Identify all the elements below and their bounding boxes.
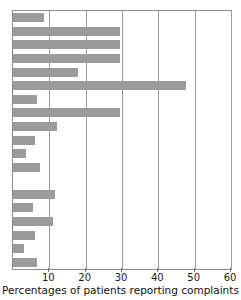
- bar: [13, 203, 33, 212]
- bar-row: [13, 190, 231, 199]
- bar-row: [13, 258, 231, 267]
- bar: [13, 13, 44, 22]
- bar-row: [13, 54, 231, 63]
- bar: [13, 217, 53, 226]
- bar: [13, 81, 186, 90]
- bar: [13, 136, 35, 145]
- bar-row: [13, 217, 231, 226]
- x-tick-label-60: 60: [224, 272, 237, 284]
- plot-area: [12, 10, 232, 270]
- x-axis-title: Percentages of patients reporting compla…: [0, 284, 241, 297]
- bar: [13, 108, 120, 117]
- bar-row: [13, 13, 231, 22]
- gridline-60: [231, 11, 232, 269]
- bar-row: [13, 231, 231, 240]
- bar: [13, 95, 37, 104]
- bar-row: [13, 244, 231, 253]
- bar: [13, 149, 26, 158]
- x-tick-label-30: 30: [115, 272, 128, 284]
- x-tick-label-10: 10: [42, 272, 55, 284]
- bar: [13, 163, 40, 172]
- bar-row: [13, 81, 231, 90]
- bar-row: [13, 163, 231, 172]
- x-tick-label-20: 20: [78, 272, 91, 284]
- bar: [13, 231, 35, 240]
- bar: [13, 40, 120, 49]
- bar: [13, 190, 55, 199]
- x-tick-label-40: 40: [151, 272, 164, 284]
- bar: [13, 68, 78, 77]
- bar-row: [13, 40, 231, 49]
- x-tick-label-50: 50: [187, 272, 200, 284]
- bar: [13, 244, 24, 253]
- bar-chart: 102030405060 Percentages of patients rep…: [0, 0, 241, 300]
- bar-row: [13, 108, 231, 117]
- bar: [13, 54, 120, 63]
- bar-row: [13, 122, 231, 131]
- bar-row: [13, 136, 231, 145]
- bar-row: [13, 68, 231, 77]
- bar-row: [13, 149, 231, 158]
- bar: [13, 258, 37, 267]
- bar-row: [13, 176, 231, 185]
- bar: [13, 122, 57, 131]
- bar-row: [13, 203, 231, 212]
- bars-layer: [13, 11, 231, 269]
- bar-row: [13, 95, 231, 104]
- bar: [13, 27, 120, 36]
- bar-row: [13, 27, 231, 36]
